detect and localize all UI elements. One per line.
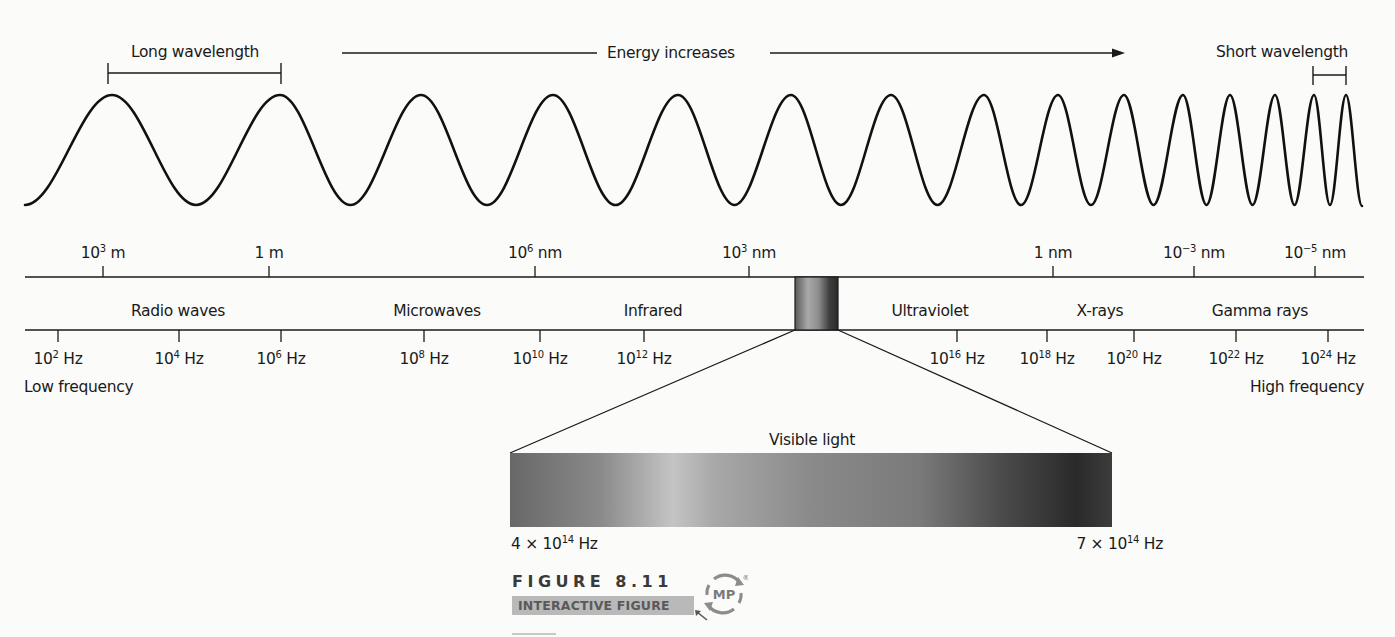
region-label-radio-waves: Radio waves xyxy=(131,302,225,320)
energy-increases-label: Energy increases xyxy=(607,44,735,62)
frequency-tick-label: 1024 Hz xyxy=(1300,349,1355,368)
visible-low-frequency-label: 4 × 1014 Hz xyxy=(511,534,598,553)
short-wavelength-bracket xyxy=(1313,66,1346,85)
frequency-tick-label: 106 Hz xyxy=(256,349,305,368)
figure-number-label: FIGURE 8.11 xyxy=(512,572,673,591)
region-label-x-rays: X-rays xyxy=(1077,302,1124,320)
svg-text:MP: MP xyxy=(713,587,735,602)
frequency-tick-label: 104 Hz xyxy=(154,349,203,368)
frequency-tick-label: 1022 Hz xyxy=(1208,349,1263,368)
frequency-tick-label: 1018 Hz xyxy=(1019,349,1074,368)
wavelength-tick-label: 103 nm xyxy=(722,243,776,262)
region-label-infrared: Infrared xyxy=(624,302,683,320)
frequency-tick-label: 102 Hz xyxy=(33,349,82,368)
frequency-tick-label: 1010 Hz xyxy=(512,349,567,368)
short-wavelength-label: Short wavelength xyxy=(1216,43,1348,61)
visible-spectrum-bar xyxy=(510,453,1112,527)
visible-high-frequency-label: 7 × 1014 Hz xyxy=(1076,534,1163,553)
frequency-tick-label: 1020 Hz xyxy=(1106,349,1161,368)
wavelength-tick-label: 10−5 nm xyxy=(1284,243,1346,262)
frequency-ticks: 102 Hz104 Hz106 Hz108 Hz1010 Hz1012 Hz10… xyxy=(33,330,1355,368)
region-label-gamma-rays: Gamma rays xyxy=(1212,302,1308,320)
wavelength-tick-label: 10−3 nm xyxy=(1163,243,1225,262)
mastering-physics-badge-icon[interactable]: MP ® xyxy=(700,571,748,617)
cut-off-body-text xyxy=(512,629,572,637)
region-label-microwaves: Microwaves xyxy=(393,302,481,320)
frequency-tick-label: 108 Hz xyxy=(399,349,448,368)
frequency-tick-label: 1016 Hz xyxy=(929,349,984,368)
visible-band-marker xyxy=(795,277,838,330)
electromagnetic-spectrum-diagram: Long wavelength Energy increases Short w… xyxy=(0,0,1395,637)
svg-text:®: ® xyxy=(743,574,749,582)
wavelength-tick-label: 1 m xyxy=(255,244,284,262)
arrow-head-icon xyxy=(1112,49,1125,58)
high-frequency-label: High frequency xyxy=(1250,378,1364,396)
wavelength-ticks: 103 m1 m106 nm103 nm1 nm10−3 nm10−5 nm xyxy=(81,243,1346,277)
frequency-tick-label: 1012 Hz xyxy=(616,349,671,368)
long-wavelength-bracket xyxy=(108,63,281,84)
wavelength-tick-label: 103 m xyxy=(81,243,126,262)
energy-increases-arrow: Energy increases xyxy=(342,44,1125,62)
wavelength-tick-label: 106 nm xyxy=(508,243,562,262)
wavelength-tick-label: 1 nm xyxy=(1034,244,1073,262)
region-label-ultraviolet: Ultraviolet xyxy=(891,302,968,320)
visible-light-label: Visible light xyxy=(769,431,855,449)
low-frequency-label: Low frequency xyxy=(24,378,133,396)
interactive-figure-button[interactable]: INTERACTIVE FIGURE xyxy=(512,596,694,615)
long-wavelength-label: Long wavelength xyxy=(131,43,259,61)
wave-curve xyxy=(25,95,1362,206)
spectrum-region-labels: Radio wavesMicrowavesInfraredUltraviolet… xyxy=(131,302,1308,320)
